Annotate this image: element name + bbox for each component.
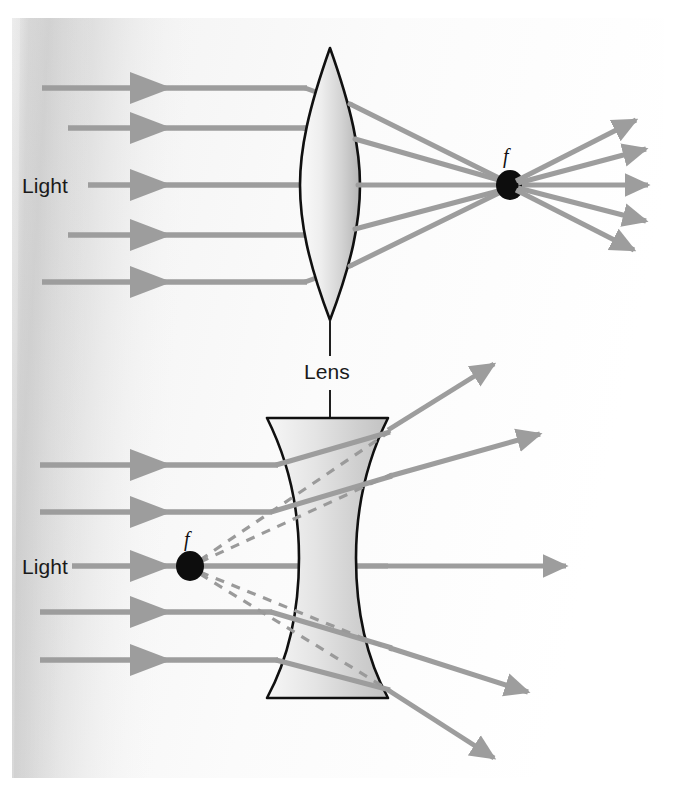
focal-point-dot-diverging bbox=[176, 551, 204, 581]
light-label-bottom: Light bbox=[22, 555, 68, 578]
light-label-top: Light bbox=[22, 174, 68, 197]
lens-diagram-figure: Light f Lens bbox=[0, 0, 676, 793]
lens-caption-label: Lens bbox=[304, 360, 350, 383]
lens-diagram-canvas: Light f Lens bbox=[0, 0, 676, 793]
